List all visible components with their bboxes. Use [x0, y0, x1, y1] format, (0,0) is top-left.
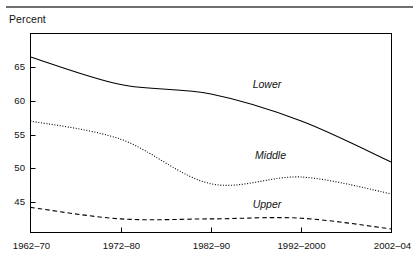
- x-tick-label: 2002–04: [374, 240, 411, 251]
- chart-canvas: [0, 0, 419, 266]
- y-tick-label: 50: [3, 162, 25, 173]
- x-tick-label: 1962–70: [13, 240, 50, 251]
- x-tick-label: 1992–2000: [277, 240, 325, 251]
- y-tick-label: 65: [3, 61, 25, 72]
- x-tick-label: 1972–80: [103, 240, 140, 251]
- series-lines-group: [31, 57, 392, 229]
- series-line-lower: [31, 57, 392, 162]
- series-line-middle: [31, 121, 392, 194]
- x-tick-label: 1982–90: [193, 240, 230, 251]
- y-tick-label: 60: [3, 95, 25, 106]
- plot-frame: [31, 34, 392, 233]
- series-label-middle: Middle: [255, 149, 286, 161]
- y-tick-label: 55: [3, 129, 25, 140]
- x-axis-tick-marks: [122, 228, 302, 233]
- series-label-upper: Upper: [253, 198, 282, 210]
- line-chart: 6560555045 1962–701972–801982–901992–200…: [0, 0, 419, 266]
- y-tick-label: 45: [3, 196, 25, 207]
- series-label-lower: Lower: [253, 78, 282, 90]
- series-line-upper: [31, 207, 392, 229]
- y-axis-tick-marks: [31, 68, 36, 203]
